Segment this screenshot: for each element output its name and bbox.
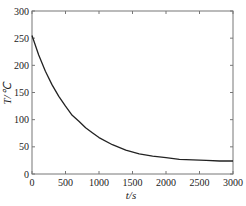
y-tick-label: 250 bbox=[14, 33, 29, 44]
x-tick-label: 2500 bbox=[190, 177, 210, 188]
y-axis-label: T/℃ bbox=[1, 81, 13, 104]
y-tick-label: 0 bbox=[24, 169, 29, 180]
tick-marks bbox=[32, 11, 233, 174]
temperature-time-chart: 050100150200250300 050010001500200025003… bbox=[0, 0, 246, 206]
x-tick-label: 3000 bbox=[223, 177, 243, 188]
y-tick-labels: 050100150200250300 bbox=[14, 6, 29, 180]
x-tick-label: 0 bbox=[30, 177, 35, 188]
x-tick-label: 500 bbox=[58, 177, 73, 188]
y-tick-label: 300 bbox=[14, 6, 29, 17]
x-tick-label: 1000 bbox=[89, 177, 109, 188]
y-tick-label: 50 bbox=[19, 141, 29, 152]
y-tick-label: 150 bbox=[14, 87, 29, 98]
y-tick-label: 200 bbox=[14, 60, 29, 71]
temperature-curve bbox=[32, 36, 233, 162]
x-tick-labels: 050010001500200025003000 bbox=[30, 177, 244, 188]
axes-frame bbox=[32, 11, 233, 174]
y-tick-label: 100 bbox=[14, 114, 29, 125]
x-tick-label: 2000 bbox=[156, 177, 176, 188]
x-tick-label: 1500 bbox=[123, 177, 143, 188]
x-axis-label: t/s bbox=[126, 189, 136, 201]
